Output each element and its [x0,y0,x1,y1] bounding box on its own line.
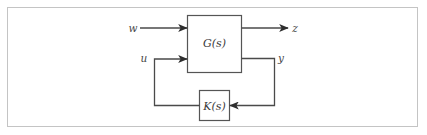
block-diagram: G(s) K(s) w z u y [0,0,427,135]
plant-block-label: G(s) [203,37,226,50]
signal-w-label: w [129,22,138,34]
signal-z: z [242,22,299,34]
controller-block: K(s) [200,91,230,121]
controller-block-label: K(s) [202,100,225,113]
signal-w: w [129,22,188,34]
plant-block: G(s) [188,16,242,73]
signal-y-label: y [277,52,285,64]
signal-u-label: u [141,52,148,64]
signal-z-label: z [291,22,298,34]
